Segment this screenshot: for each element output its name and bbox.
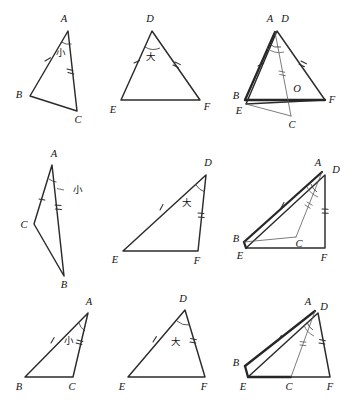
vertex-label-d: D bbox=[178, 293, 187, 304]
vertex-label-b: B bbox=[16, 89, 23, 100]
vertex-label-a: A bbox=[85, 296, 93, 307]
vertex-label-c: C bbox=[288, 119, 296, 130]
angle-label-large: 大 bbox=[182, 197, 192, 208]
vertex-label-b: B bbox=[233, 90, 240, 101]
vertex-label-d: D bbox=[203, 157, 212, 168]
vertex-label-b: B bbox=[61, 279, 68, 290]
vertex-label-f: F bbox=[200, 381, 208, 392]
angle-label-large: 大 bbox=[171, 336, 181, 347]
vertex-label-a: A bbox=[304, 296, 312, 307]
vertex-label-d: D bbox=[319, 301, 328, 312]
angle-label-large: 大 bbox=[146, 51, 156, 62]
angle-label-small: 小 bbox=[73, 184, 83, 195]
vertex-label-b: B bbox=[16, 381, 23, 392]
vertex-label-e: E bbox=[239, 381, 247, 392]
vertex-label-b: B bbox=[233, 233, 240, 244]
vertex-label-e: E bbox=[235, 105, 243, 116]
vertex-label-f: F bbox=[326, 381, 334, 392]
vertex-label-a: A bbox=[50, 148, 58, 159]
vertex-label-a: A bbox=[266, 13, 274, 24]
vertex-label-a: A bbox=[60, 13, 68, 24]
vertex-label-e: E bbox=[111, 254, 119, 265]
vertex-label-c: C bbox=[285, 381, 293, 392]
vertex-label-d: D bbox=[331, 164, 340, 175]
vertex-label-b: B bbox=[233, 357, 240, 368]
vertex-label-d: D bbox=[145, 13, 154, 24]
vertex-label-f: F bbox=[320, 252, 328, 263]
vertex-label-a: A bbox=[314, 157, 322, 168]
vertex-label-f: F bbox=[328, 94, 336, 105]
vertex-label-e: E bbox=[109, 104, 117, 115]
vertex-label-e: E bbox=[118, 381, 126, 392]
vertex-label-c: C bbox=[68, 381, 76, 392]
angle-label-small: 小 bbox=[56, 47, 66, 58]
vertex-label-e: E bbox=[236, 250, 244, 261]
vertex-label-f: F bbox=[203, 101, 211, 112]
vertex-label-c: C bbox=[295, 238, 303, 249]
vertex-label-c: C bbox=[74, 114, 82, 125]
vertex-label-f: F bbox=[193, 255, 201, 266]
vertex-label-d: D bbox=[280, 13, 289, 24]
geometry-figure-sheet: A B C 小 D E F 大 A D B E C F O bbox=[0, 0, 356, 409]
vertex-label-c: C bbox=[20, 219, 28, 230]
angle-label-small: 小 bbox=[64, 335, 74, 346]
intersection-label-o: O bbox=[293, 83, 301, 94]
